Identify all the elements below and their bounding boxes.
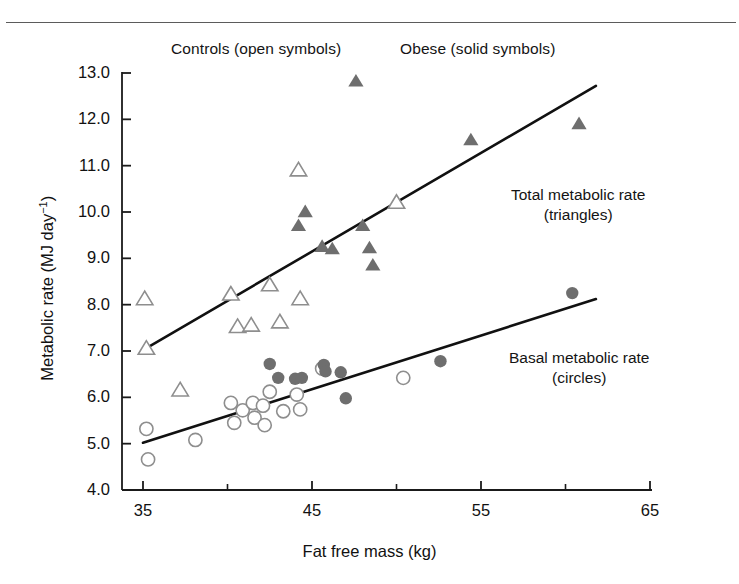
y-axis-tick-label: 11.0 — [48, 157, 110, 174]
data-point-triangle-open — [272, 314, 288, 328]
data-point-triangle-open — [292, 291, 308, 305]
data-point-triangle-solid — [571, 117, 586, 130]
x-axis-title: Fat free mass (kg) — [0, 542, 739, 561]
x-axis-tick-label: 35 — [113, 502, 173, 519]
data-point-triangle-solid — [348, 74, 363, 87]
data-point-triangle-solid — [463, 133, 478, 146]
data-point-circle-solid — [335, 366, 347, 378]
data-point-circle-solid — [319, 365, 331, 377]
series-total-obese — [291, 74, 587, 271]
figure-panel: Controls (open symbols) Obese (solid sym… — [0, 0, 739, 584]
data-point-triangle-solid — [298, 205, 313, 218]
y-axis-tick-label: 12.0 — [48, 110, 110, 127]
data-point-circle-open — [141, 453, 154, 466]
data-point-triangle-open — [138, 341, 154, 355]
data-point-circle-open — [258, 419, 271, 432]
data-point-circle-open — [397, 371, 410, 384]
x-axis-tick-label: 55 — [451, 502, 511, 519]
x-axis-tick-label: 45 — [282, 502, 342, 519]
y-axis-tick-label: 6.0 — [48, 388, 110, 405]
annotation-basal-metabolic-rate: Basal metabolic rate (circles) — [509, 348, 649, 388]
y-axis-tick-label: 10.0 — [48, 203, 110, 220]
data-point-triangle-solid — [365, 258, 380, 271]
data-point-circle-solid — [434, 355, 446, 367]
data-point-circle-open — [228, 416, 241, 429]
y-axis-tick-label: 5.0 — [48, 435, 110, 452]
data-point-triangle-open — [243, 318, 259, 332]
data-point-circle-open — [263, 385, 276, 398]
y-axis-title-exponent: −1 — [37, 201, 49, 214]
data-point-circle-open — [224, 396, 237, 409]
annotation-basal-line2: (circles) — [509, 368, 649, 388]
data-point-circle-solid — [272, 372, 284, 384]
data-point-circle-open — [140, 422, 153, 435]
annotation-total-metabolic-rate: Total metabolic rate (triangles) — [511, 185, 645, 225]
y-axis-tick-label: 8.0 — [48, 296, 110, 313]
data-point-circle-solid — [340, 392, 352, 404]
data-point-triangle-solid — [362, 241, 377, 254]
y-axis-tick-label: 7.0 — [48, 342, 110, 359]
data-point-triangle-solid — [291, 219, 306, 232]
data-point-circle-solid — [264, 358, 276, 370]
data-point-circle-open — [277, 405, 290, 418]
data-point-triangle-open — [136, 291, 152, 305]
data-point-circle-solid — [566, 287, 578, 299]
annotation-basal-line1: Basal metabolic rate — [509, 348, 649, 368]
data-point-circle-open — [256, 399, 269, 412]
y-axis-tick-label: 4.0 — [48, 481, 110, 498]
y-axis-title-close: ) — [38, 196, 56, 202]
annotation-total-line1: Total metabolic rate — [511, 185, 645, 205]
data-point-triangle-open — [172, 382, 188, 396]
data-point-triangle-open — [290, 162, 306, 176]
data-point-circle-open — [294, 403, 307, 416]
data-point-circle-open — [189, 433, 202, 446]
x-axis-tick-label: 65 — [620, 502, 680, 519]
data-point-triangle-open — [223, 287, 239, 301]
data-point-triangle-open — [388, 195, 404, 209]
annotation-total-line2: (triangles) — [511, 205, 645, 225]
y-axis-tick-label: 9.0 — [48, 249, 110, 266]
data-point-circle-open — [290, 388, 303, 401]
y-axis-tick-label: 13.0 — [48, 64, 110, 81]
scatter-plot-canvas — [0, 0, 739, 584]
data-point-circle-solid — [296, 372, 308, 384]
